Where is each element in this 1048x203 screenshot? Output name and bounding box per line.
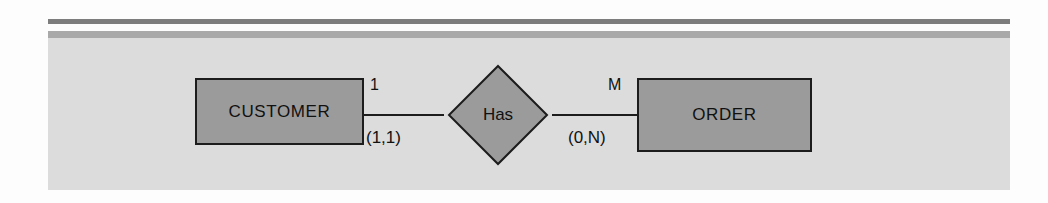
er-diagram: CUSTOMER ORDER Has 1 (1,1) M (0,N) — [0, 0, 1048, 203]
cardinality-right-ratio: M — [608, 76, 621, 94]
cardinality-right-participation: (0,N) — [568, 128, 606, 148]
entity-customer[interactable]: CUSTOMER — [195, 78, 364, 145]
connector-line-customer-has — [364, 114, 444, 116]
relationship-has[interactable] — [443, 60, 553, 170]
cardinality-left-ratio: 1 — [370, 76, 379, 94]
cardinality-left-participation: (1,1) — [366, 128, 401, 148]
connector-line-has-order — [552, 114, 638, 116]
diamond-shape — [443, 60, 553, 170]
entity-customer-label: CUSTOMER — [229, 102, 331, 122]
entity-order[interactable]: ORDER — [637, 78, 812, 152]
entity-order-label: ORDER — [692, 105, 756, 125]
page-root: CUSTOMER ORDER Has 1 (1,1) M (0,N) — [0, 0, 1048, 203]
